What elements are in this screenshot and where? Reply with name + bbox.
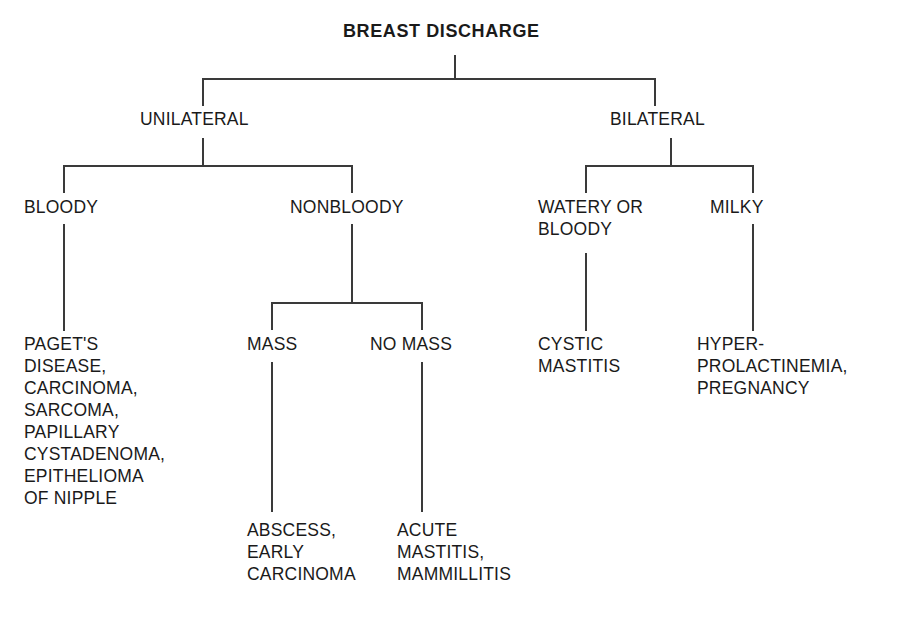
node-no-mass-outcomes: ACUTE MASTITIS, MAMMILLITIS — [397, 519, 511, 585]
node-bloody: BLOODY — [24, 196, 98, 218]
connector-mass-to-outcomes — [271, 362, 273, 512]
connector-to-milky — [752, 165, 754, 193]
connector-unilateral-bar — [63, 165, 353, 167]
connector-milky-to-outcomes — [752, 224, 754, 331]
connector-bilateral-bar — [585, 165, 754, 167]
node-no-mass: NO MASS — [370, 333, 452, 355]
connector-no-mass-to-outcomes — [421, 362, 423, 512]
connector-watery-to-outcomes — [585, 253, 587, 331]
connector-to-mass — [271, 302, 273, 330]
connector-nonbloody-bar — [271, 302, 423, 304]
connector-to-bilateral — [654, 78, 656, 106]
connector-root-stem — [454, 55, 456, 79]
connector-unilateral-stem — [202, 138, 204, 165]
node-watery-outcomes: CYSTIC MASTITIS — [538, 333, 620, 377]
connector-to-nonbloody — [351, 165, 353, 193]
breast-discharge-flowchart: BREAST DISCHARGE UNILATERAL BILATERAL BL… — [0, 0, 904, 617]
connector-bilateral-stem — [670, 138, 672, 165]
connector-to-watery-or-bloody — [585, 165, 587, 193]
connector-to-no-mass — [421, 302, 423, 330]
node-bloody-outcomes: PAGET'S DISEASE, CARCINOMA, SARCOMA, PAP… — [24, 333, 165, 509]
node-milky-outcomes: HYPER- PROLACTINEMIA, PREGNANCY — [697, 333, 848, 399]
node-watery-or-bloody: WATERY OR BLOODY — [538, 196, 643, 240]
connector-to-bloody — [63, 165, 65, 193]
node-unilateral: UNILATERAL — [140, 108, 249, 130]
connector-bloody-to-outcomes — [63, 224, 65, 331]
node-bilateral: BILATERAL — [610, 108, 705, 130]
node-mass: MASS — [247, 333, 297, 355]
node-root: BREAST DISCHARGE — [343, 20, 540, 42]
node-mass-outcomes: ABSCESS, EARLY CARCINOMA — [247, 519, 356, 585]
node-milky: MILKY — [710, 196, 764, 218]
node-nonbloody: NONBLOODY — [290, 196, 404, 218]
connector-root-bar — [202, 78, 656, 80]
connector-to-unilateral — [202, 78, 204, 106]
connector-nonbloody-stem — [351, 224, 353, 302]
